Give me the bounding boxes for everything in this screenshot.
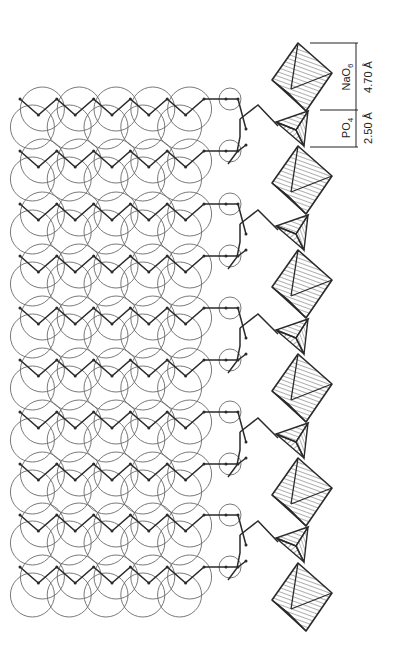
carbon-atom xyxy=(225,411,228,414)
carbon-atom xyxy=(37,323,40,326)
atom-circle xyxy=(131,555,175,599)
atom-circle xyxy=(94,296,138,340)
glycerol-head-groups xyxy=(228,105,278,580)
carbon-atom xyxy=(55,150,58,153)
glycerol-backbone xyxy=(228,535,240,580)
carbon-atom xyxy=(74,271,77,274)
nao6-po4-polyhedra-column xyxy=(272,43,332,631)
glycerol-backbone xyxy=(228,432,240,477)
atom-circle xyxy=(94,452,138,496)
carbon-atom xyxy=(184,582,187,585)
glycerol-backbone xyxy=(228,119,240,164)
carbon-atom xyxy=(92,307,95,310)
carbon-atom xyxy=(203,566,206,569)
carbon-atom xyxy=(37,114,40,117)
carbon-atom xyxy=(55,98,58,101)
atom-circle xyxy=(57,452,101,496)
carbon-atom xyxy=(19,411,22,414)
carbon-atom xyxy=(74,582,77,585)
carbon-atom xyxy=(37,219,40,222)
carbon-atom xyxy=(166,411,169,414)
atom-circle xyxy=(10,521,54,565)
carbon-atom xyxy=(19,514,22,517)
carbon-atom xyxy=(147,479,150,482)
atom-circle xyxy=(20,452,64,496)
carbon-atom xyxy=(111,114,114,117)
carbon-atom xyxy=(74,530,77,533)
atom-circle xyxy=(57,400,101,444)
po4-tetrahedron xyxy=(276,423,308,458)
carbon-atom xyxy=(147,219,150,222)
carbon-atom xyxy=(74,427,77,430)
carbon-atom xyxy=(92,359,95,362)
carbon-atom xyxy=(129,463,132,466)
atom-circle xyxy=(94,555,138,599)
lipid-crystal-packing-diagram: NaO6 4.70 Å PO4 2.50 Å xyxy=(0,0,395,668)
carbon-atom xyxy=(129,514,132,517)
atom-circle xyxy=(168,400,212,444)
atom-circle xyxy=(131,503,175,547)
carbon-atom xyxy=(55,463,58,466)
carbon-atom xyxy=(225,150,228,153)
carbon-atom xyxy=(203,307,206,310)
carbon-atom xyxy=(37,271,40,274)
atom-circle xyxy=(10,314,54,358)
carbon-atom xyxy=(245,544,248,547)
atom-circle xyxy=(168,452,212,496)
glycerol-backbone xyxy=(228,328,240,373)
atom-circle xyxy=(158,470,202,514)
carbon-atom xyxy=(147,530,150,533)
carbon-atom xyxy=(237,307,240,310)
atom-circle xyxy=(57,139,101,183)
carbon-atom xyxy=(55,514,58,517)
carbon-atom xyxy=(225,307,228,310)
carbon-atom xyxy=(129,307,132,310)
carbon-atom xyxy=(203,255,206,258)
nao6-octahedron xyxy=(272,146,332,214)
carbon-atom xyxy=(237,411,240,414)
atom-circle xyxy=(84,573,128,617)
carbon-atom xyxy=(37,582,40,585)
atom-circle xyxy=(168,139,212,183)
carbon-atom xyxy=(166,307,169,310)
carbon-atom xyxy=(92,514,95,517)
carbon-atom xyxy=(111,271,114,274)
po4-label: PO4 xyxy=(340,117,355,138)
carbon-atom xyxy=(74,219,77,222)
carbon-atom xyxy=(19,98,22,101)
carbon-atom xyxy=(92,463,95,466)
atom-circle xyxy=(158,573,202,617)
carbon-atom xyxy=(166,514,169,517)
carbon-atom xyxy=(184,166,187,169)
carbon-atom xyxy=(166,255,169,258)
carbon-atom xyxy=(111,582,114,585)
carbon-atom xyxy=(225,463,228,466)
atom-circle xyxy=(20,87,64,131)
atom-circle xyxy=(20,296,64,340)
phosphate-linker xyxy=(240,210,278,230)
nao6-octahedron xyxy=(272,458,332,526)
po4-distance-label: 2.50 Å xyxy=(362,111,374,143)
carbon-atom xyxy=(245,128,248,131)
carbon-atom xyxy=(111,530,114,533)
atom-circle xyxy=(168,555,212,599)
carbon-atom xyxy=(129,359,132,362)
carbon-atom xyxy=(237,203,240,206)
carbon-atom xyxy=(19,203,22,206)
atom-circle xyxy=(20,244,64,288)
nao6-distance-label: 4.70 Å xyxy=(362,60,374,92)
nao6-octahedron xyxy=(272,563,332,631)
atom-circle xyxy=(10,210,54,254)
carbon-atom xyxy=(203,150,206,153)
carbon-atom xyxy=(92,566,95,569)
carbon-atom xyxy=(129,411,132,414)
carbon-atom xyxy=(245,233,248,236)
atom-circle xyxy=(57,555,101,599)
carbon-atom xyxy=(92,203,95,206)
phosphate-linker xyxy=(240,521,278,542)
carbon-atom xyxy=(74,375,77,378)
atom-circle xyxy=(10,366,54,410)
carbon-atom xyxy=(129,255,132,258)
carbon-atom xyxy=(166,463,169,466)
carbon-atom xyxy=(147,271,150,274)
